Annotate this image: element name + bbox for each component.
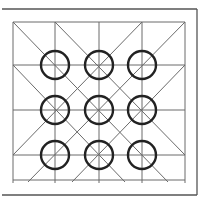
- diagram-canvas: [0, 0, 210, 206]
- grid-lines: [13, 22, 185, 183]
- diagonal-line: [28, 22, 185, 182]
- diagonal-line: [13, 22, 168, 182]
